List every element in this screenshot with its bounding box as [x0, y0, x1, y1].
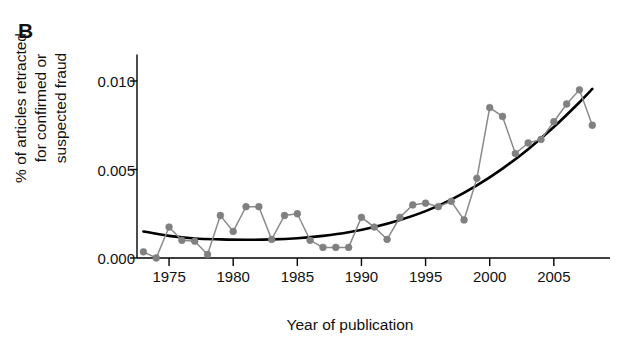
x-axis-label: Year of publication [180, 316, 520, 334]
figure-panel-b: B % of articles retracted for confirmed … [0, 0, 623, 349]
data-point-marker [166, 224, 173, 231]
data-point-marker [230, 228, 237, 235]
x-tick-label: 1985 [267, 268, 327, 285]
data-point-marker [140, 248, 147, 255]
data-point-marker [371, 224, 378, 231]
data-point-marker [191, 238, 198, 245]
x-tick-label: 1995 [396, 268, 456, 285]
data-point-marker [358, 214, 365, 221]
x-tick-label: 2000 [460, 268, 520, 285]
data-point-marker [461, 217, 468, 224]
data-point-marker [550, 118, 557, 125]
data-point-marker [409, 202, 416, 209]
data-point-marker [320, 244, 327, 251]
x-tick-label: 1990 [331, 268, 391, 285]
data-point-marker [153, 255, 160, 262]
data-point-marker [486, 104, 493, 111]
data-point-marker [397, 214, 404, 221]
y-tick-label: 0.000 [79, 250, 135, 267]
y-tick-label: 0.010 [79, 73, 135, 90]
data-point-marker [255, 203, 262, 210]
data-point-marker [525, 140, 532, 147]
observed-series-line [143, 90, 592, 258]
data-point-marker [435, 203, 442, 210]
x-tick-label: 1980 [203, 268, 263, 285]
data-point-marker [422, 200, 429, 207]
data-point-marker [294, 210, 301, 217]
data-point-marker [281, 212, 288, 219]
y-tick-label-group: 0.000 0.005 0.010 [0, 0, 135, 349]
data-point-marker [243, 203, 250, 210]
fitted-trend-curve [143, 89, 592, 240]
data-point-marker [268, 236, 275, 243]
data-point-marker [576, 86, 583, 93]
data-point-marker [384, 236, 391, 243]
data-point-marker [538, 136, 545, 143]
data-point-marker [473, 175, 480, 182]
data-point-marker [217, 212, 224, 219]
x-tick-label: 1975 [139, 268, 199, 285]
data-point-marker [332, 244, 339, 251]
data-point-marker [499, 113, 506, 120]
data-point-marker [589, 122, 596, 129]
data-point-marker [204, 251, 211, 258]
x-tick-label: 2005 [524, 268, 584, 285]
data-point-marker [345, 244, 352, 251]
data-point-marker [563, 101, 570, 108]
data-point-marker [512, 150, 519, 157]
y-tick-label: 0.005 [79, 161, 135, 178]
data-point-marker [448, 198, 455, 205]
data-point-marker [307, 237, 314, 244]
data-point-marker [178, 237, 185, 244]
